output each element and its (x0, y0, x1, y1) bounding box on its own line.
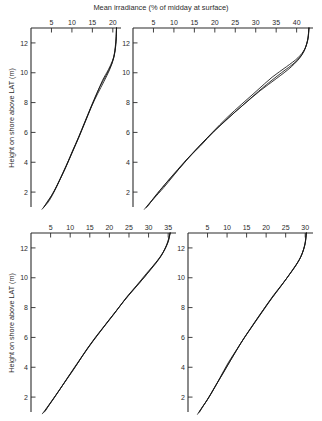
ytick-label-bottom-left-3: 8 (24, 304, 28, 311)
xtick-label-bottom-left-6: 35 (164, 224, 172, 231)
xtick-label-top-left-0: 5 (50, 19, 54, 26)
ytick-label-bottom-right-1: 4 (181, 364, 185, 371)
xtick-label-bottom-right-5: 30 (301, 224, 309, 231)
panel-top-right: 51015202530354024681012 (122, 19, 313, 210)
ytick-label-bottom-right-5: 12 (177, 245, 185, 252)
ytick-label-top-right-0: 2 (126, 189, 130, 196)
xtick-label-bottom-left-3: 20 (105, 224, 113, 231)
xtick-label-bottom-right-4: 25 (282, 224, 290, 231)
curve-top-left-curve-right (42, 28, 116, 209)
ytick-label-top-left-1: 4 (24, 159, 28, 166)
ytick-label-bottom-left-1: 4 (24, 364, 28, 371)
ytick-label-top-left-5: 12 (20, 40, 28, 47)
panel-top-left: 510152024681012 (20, 19, 121, 210)
ytick-label-top-right-3: 8 (126, 99, 130, 106)
xtick-label-bottom-right-3: 20 (262, 224, 270, 231)
ytick-label-bottom-right-0: 2 (181, 394, 185, 401)
xtick-label-bottom-left-2: 15 (86, 224, 94, 231)
ytick-label-top-right-1: 4 (126, 159, 130, 166)
ytick-label-top-left-3: 8 (24, 99, 28, 106)
ytick-label-bottom-right-3: 8 (181, 304, 185, 311)
xtick-label-top-right-1: 10 (170, 19, 178, 26)
xtick-label-top-left-1: 10 (68, 19, 76, 26)
yaxis-title-bottom-row: Height on shore above LAT (m) (7, 273, 16, 373)
panel-bottom-left: 510152025303524681012 (20, 224, 176, 414)
curve-top-right-curve-right (144, 28, 308, 209)
irradiance-profile-figure: Mean irradiance (% of midday at surface)… (0, 0, 322, 421)
ytick-label-bottom-left-2: 6 (24, 334, 28, 341)
figure-canvas: Mean irradiance (% of midday at surface)… (0, 0, 322, 421)
ytick-label-bottom-right-4: 10 (177, 274, 185, 281)
xtick-label-bottom-right-0: 5 (206, 224, 210, 231)
ytick-label-top-right-4: 10 (122, 69, 130, 76)
ytick-label-top-left-0: 2 (24, 189, 28, 196)
ytick-label-bottom-left-4: 10 (20, 274, 28, 281)
xtick-label-top-right-0: 5 (152, 19, 156, 26)
ytick-label-top-left-4: 10 (20, 69, 28, 76)
panel-bottom-right: 5101520253024681012 (177, 224, 313, 415)
xtick-label-top-right-4: 25 (231, 19, 239, 26)
xtick-label-bottom-right-2: 15 (243, 224, 251, 231)
xtick-label-top-right-5: 30 (252, 19, 260, 26)
curve-top-left-curve-left (45, 28, 117, 206)
curve-top-right-curve-middle (146, 28, 309, 208)
figure-xaxis-title: Mean irradiance (% of midday at surface) (93, 3, 228, 12)
ytick-label-top-right-2: 6 (126, 129, 130, 136)
xtick-label-top-right-6: 35 (272, 19, 280, 26)
ytick-label-top-right-5: 12 (122, 40, 130, 47)
xtick-label-bottom-left-0: 5 (49, 224, 53, 231)
xtick-label-bottom-left-4: 25 (125, 224, 133, 231)
yaxis-title-top-row: Height on shore above LAT (m) (7, 68, 16, 168)
xtick-label-bottom-left-5: 30 (145, 224, 153, 231)
curve-bottom-right-curve-middle (199, 233, 307, 413)
xtick-label-top-right-3: 20 (211, 19, 219, 26)
xtick-label-top-right-7: 40 (293, 19, 301, 26)
curve-top-right-curve-left (148, 28, 309, 206)
ytick-label-top-left-2: 6 (24, 129, 28, 136)
ytick-label-bottom-right-2: 6 (181, 334, 185, 341)
ytick-label-bottom-left-5: 12 (20, 245, 28, 252)
xtick-label-top-left-3: 20 (109, 19, 117, 26)
xtick-label-bottom-left-1: 10 (66, 224, 74, 231)
curve-bottom-right-curve-right (198, 233, 307, 414)
xtick-label-top-right-2: 15 (190, 19, 198, 26)
xtick-label-bottom-right-1: 10 (223, 224, 231, 231)
xtick-label-top-left-2: 15 (88, 19, 96, 26)
ytick-label-bottom-left-0: 2 (24, 394, 28, 401)
curve-bottom-left-curve-right (42, 233, 170, 414)
curve-top-left-curve-middle (43, 28, 116, 208)
